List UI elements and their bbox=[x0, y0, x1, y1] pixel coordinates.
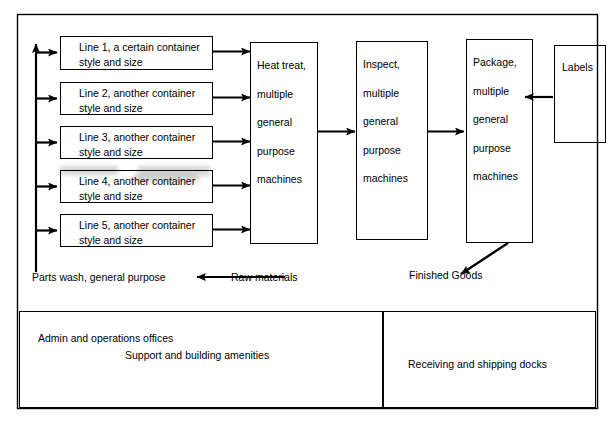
line-feed-arrows bbox=[37, 53, 57, 231]
raw-materials-label: Raw materials bbox=[231, 270, 298, 284]
inspect-box[interactable]: Inspect, multiple general purpose machin… bbox=[356, 41, 428, 240]
receiving-shipping-docks-box[interactable]: Receiving and shipping docks bbox=[383, 311, 596, 408]
package-box[interactable]: Package, multiple general purpose machin… bbox=[466, 39, 533, 243]
heat-treat-text: Heat treat, multiple general purpose mac… bbox=[257, 51, 306, 194]
receiving-shipping-docks-label: Receiving and shipping docks bbox=[408, 357, 547, 371]
production-line-box-4[interactable]: Line 4, another container style and size bbox=[60, 170, 213, 203]
inspect-text: Inspect, multiple general purpose machin… bbox=[363, 50, 408, 193]
production-line-2-text: Line 2, another container style and size bbox=[79, 86, 219, 116]
production-line-box-2[interactable]: Line 2, another container style and size bbox=[60, 82, 213, 115]
labels-box[interactable]: Labels bbox=[554, 45, 606, 143]
production-line-3-text: Line 3, another container style and size bbox=[79, 130, 219, 160]
production-line-box-3[interactable]: Line 3, another container style and size bbox=[60, 126, 213, 159]
heat-treat-box[interactable]: Heat treat, multiple general purpose mac… bbox=[250, 42, 318, 244]
support-amenities-label: Support and building amenities bbox=[125, 348, 269, 362]
production-line-box-1[interactable]: Line 1, a certain container style and si… bbox=[60, 36, 213, 70]
finished-goods-label: Finished Goods bbox=[409, 268, 483, 282]
package-text: Package, multiple general purpose machin… bbox=[473, 48, 518, 191]
production-line-1-text: Line 1, a certain container style and si… bbox=[79, 40, 219, 70]
admin-offices-label: Admin and operations offices bbox=[38, 331, 173, 345]
production-line-5-text: Line 5, another container style and size bbox=[79, 218, 219, 248]
production-line-box-5[interactable]: Line 5, another container style and size bbox=[60, 214, 213, 247]
labels-box-text: Labels bbox=[562, 60, 593, 74]
process-flow-diagram: Line 1, a certain container style and si… bbox=[0, 0, 611, 430]
admin-offices-box[interactable]: Admin and operations offices Support and… bbox=[19, 311, 383, 408]
production-line-4-text: Line 4, another container style and size bbox=[79, 174, 219, 204]
parts-wash-label: Parts wash, general purpose bbox=[32, 270, 166, 284]
